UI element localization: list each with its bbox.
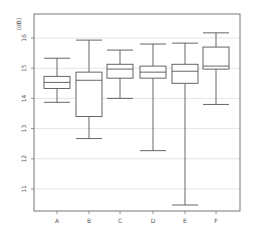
x-tick-label: C (118, 217, 122, 224)
x-axis: ABCDEF (55, 211, 218, 224)
y-axis-label: (dB) (15, 18, 22, 31)
y-tick-label: 11 (20, 185, 27, 193)
x-tick-label: D (151, 217, 156, 224)
box-c (107, 50, 133, 98)
plot-frame (34, 14, 240, 211)
x-tick-label: F (214, 217, 218, 224)
iqr-box (76, 72, 102, 116)
x-tick-label: B (87, 217, 91, 224)
x-tick-label: E (183, 217, 187, 224)
boxes (44, 33, 229, 205)
iqr-box (172, 64, 198, 83)
x-tick-label: A (55, 217, 60, 224)
box-b (76, 40, 102, 138)
y-tick-label: 15 (20, 64, 27, 72)
box-a (44, 58, 70, 102)
box-e (172, 43, 198, 205)
box-d (140, 44, 166, 151)
y-tick-label: 16 (20, 34, 27, 42)
box-f (203, 33, 229, 105)
box-plot-chart: 111213141516 ABCDEF (dB) (0, 0, 257, 241)
y-tick-label: 13 (20, 125, 27, 133)
y-axis: 111213141516 (20, 34, 34, 193)
y-tick-label: 12 (20, 155, 27, 163)
y-tick-label: 14 (20, 94, 27, 102)
iqr-box (107, 64, 133, 78)
